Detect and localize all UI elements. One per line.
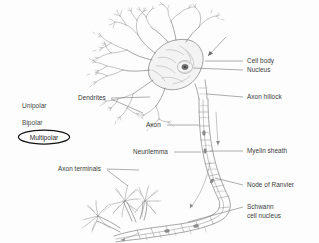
leader-node-of-ranvier (215, 178, 243, 185)
nucleus-structure (178, 61, 193, 74)
callout-label-node-of-ranvier: Node of Ranvier (247, 181, 294, 189)
leader-dendrites-b (111, 99, 143, 113)
callout-label-dendrites: Dendrites (78, 94, 106, 102)
callout-label-schwann-cell-nucleus-line2: cell nucleus (247, 212, 281, 220)
callout-label-schwann-cell-nucleus-line1: Schwann (247, 203, 274, 211)
polarity-option-unipolar[interactable]: Unipolar (22, 102, 47, 109)
leader-axon-terminals-a (107, 169, 139, 170)
polarity-option-bipolar[interactable]: Bipolar (22, 119, 43, 126)
polarity-option-multipolar-label: Multipolar (17, 129, 71, 145)
callout-label-nucleus: Nucleus (247, 66, 270, 74)
callout-label-axon: Axon (146, 121, 161, 129)
callout-label-axon-hillock: Axon hillock (247, 93, 282, 101)
cell-body-soma (148, 39, 203, 89)
leader-axon-hillock (207, 94, 243, 97)
leader-axon-terminals-b (107, 170, 128, 186)
leader-schwann-cell-nucleus (188, 207, 243, 222)
myelinated-axon (114, 99, 230, 242)
callout-label-myelin-sheath: Myelin sheath (247, 147, 287, 155)
leader-dendrites-a (111, 97, 150, 98)
axon-hillock (195, 80, 207, 99)
callout-label-neurilemma: Neurilemma (133, 148, 168, 156)
axon-terminal-branches (82, 185, 161, 232)
neuron-diagram-figure: .ink { fill:none; stroke:#777777; stroke… (0, 0, 319, 243)
callout-label-axon-terminals: Axon terminals (58, 165, 101, 173)
callout-label-cell-body: Cell body (247, 57, 274, 65)
polarity-option-multipolar[interactable]: Multipolar (17, 129, 71, 145)
